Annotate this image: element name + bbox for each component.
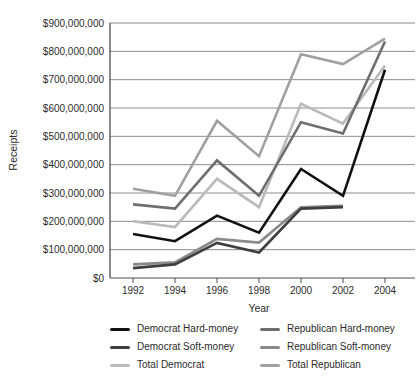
legend-label: Republican Soft-money [287, 340, 391, 354]
y-axis-title: Receipts [7, 130, 19, 171]
chart-legend: Democrat Hard-moneyDemocrat Soft-moneyTo… [0, 320, 418, 380]
series-line-republican-soft-money [133, 206, 343, 265]
legend-swatch-icon [260, 328, 280, 331]
y-tick-label: $100,000,000 [43, 244, 105, 255]
legend-item-republican-hard-money: Republican Hard-money [260, 322, 395, 336]
legend-label: Total Republican [287, 358, 361, 372]
legend-item-total-republican: Total Republican [260, 358, 361, 372]
legend-item-total-democrat: Total Democrat [110, 358, 204, 372]
y-tick-label: $900,000,000 [43, 18, 105, 29]
legend-label: Total Democrat [137, 358, 204, 372]
legend-swatch-icon [260, 364, 280, 367]
line-chart: $0$100,000,000$200,000,000$300,000,000$4… [0, 0, 418, 318]
x-tick-label: 1992 [122, 285, 145, 296]
x-tick-label: 1998 [248, 285, 271, 296]
y-tick-label: $600,000,000 [43, 103, 105, 114]
legend-swatch-icon [110, 364, 130, 367]
y-tick-label: $800,000,000 [43, 46, 105, 57]
x-axis-title: Year [248, 302, 270, 314]
x-tick-label: 2000 [290, 285, 313, 296]
x-tick-label: 1994 [164, 285, 187, 296]
legend-swatch-icon [110, 328, 130, 331]
y-tick-label: $500,000,000 [43, 131, 105, 142]
x-tick-label: 2004 [374, 285, 397, 296]
legend-swatch-icon [110, 346, 130, 349]
y-tick-label: $0 [93, 273, 105, 284]
x-tick-label: 2002 [332, 285, 355, 296]
y-tick-label: $400,000,000 [43, 159, 105, 170]
legend-item-democrat-soft-money: Democrat Soft-money [110, 340, 234, 354]
series-line-democrat-soft-money [133, 207, 343, 268]
legend-item-democrat-hard-money: Democrat Hard-money [110, 322, 238, 336]
x-tick-label: 1996 [206, 285, 229, 296]
y-tick-label: $700,000,000 [43, 74, 105, 85]
party-receipts-line-chart-figure: $0$100,000,000$200,000,000$300,000,000$4… [0, 0, 418, 382]
legend-label: Democrat Soft-money [137, 340, 234, 354]
legend-label: Democrat Hard-money [137, 322, 238, 336]
y-tick-label: $200,000,000 [43, 216, 105, 227]
series-line-total-democrat [133, 66, 385, 228]
y-tick-label: $300,000,000 [43, 188, 105, 199]
legend-label: Republican Hard-money [287, 322, 395, 336]
legend-swatch-icon [260, 346, 280, 349]
legend-item-republican-soft-money: Republican Soft-money [260, 340, 391, 354]
